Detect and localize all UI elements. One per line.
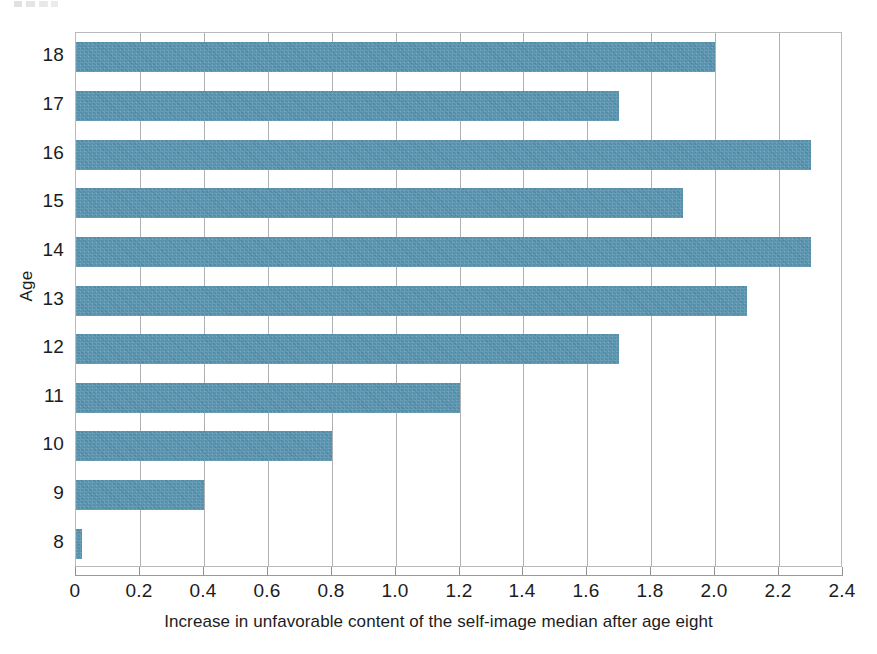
bar-row	[76, 140, 841, 170]
bar-age-10	[76, 431, 332, 461]
bar-age-8	[76, 529, 82, 559]
bar-age-16	[76, 140, 811, 170]
y-tick-label-12: 12	[34, 336, 64, 358]
x-tick-label-0.2: 0.2	[104, 580, 174, 602]
y-tick-label-16: 16	[34, 142, 64, 164]
x-tick-label-2: 2.0	[679, 580, 749, 602]
y-axis-title: Age	[17, 251, 37, 321]
x-tick-label-2.2: 2.2	[743, 580, 813, 602]
bars-layer	[76, 33, 841, 566]
y-tick-label-13: 13	[34, 288, 64, 310]
bar-age-9	[76, 480, 204, 510]
x-tick-label-0.6: 0.6	[232, 580, 302, 602]
bar-age-18	[76, 42, 715, 72]
y-tick-label-9: 9	[34, 482, 64, 504]
bar-age-14	[76, 237, 811, 267]
y-tick-label-17: 17	[34, 93, 64, 115]
x-axis-title: Increase in unfavorable content of the s…	[0, 612, 877, 632]
y-tick-label-8: 8	[34, 531, 64, 553]
bar-age-11	[76, 383, 460, 413]
x-tick-label-2.4: 2.4	[807, 580, 877, 602]
bar-age-12	[76, 334, 619, 364]
y-tick-label-11: 11	[34, 385, 64, 407]
bar-row	[76, 188, 841, 218]
bar-row	[76, 334, 841, 364]
bar-age-13	[76, 286, 747, 316]
x-tick-label-1.4: 1.4	[487, 580, 557, 602]
bar-age-15	[76, 188, 683, 218]
x-tick-label-0.4: 0.4	[168, 580, 238, 602]
x-tick-label-1.6: 1.6	[551, 580, 621, 602]
bar-row	[76, 431, 841, 461]
x-tick-label-1.8: 1.8	[615, 580, 685, 602]
x-tick-label-0: 0	[40, 580, 110, 602]
x-tick-label-1: 1.0	[360, 580, 430, 602]
bar-row	[76, 286, 841, 316]
x-tick-label-0.8: 0.8	[296, 580, 366, 602]
y-tick-label-10: 10	[34, 433, 64, 455]
bar-row	[76, 383, 841, 413]
y-tick-label-14: 14	[34, 239, 64, 261]
bar-chart-figure: Age 18171615141312111098 00.20.40.60.81.…	[0, 0, 877, 654]
bar-row	[76, 480, 841, 510]
y-tick-label-15: 15	[34, 190, 64, 212]
bar-row	[76, 42, 841, 72]
plot-area	[75, 32, 842, 567]
bar-age-17	[76, 91, 619, 121]
bar-row	[76, 237, 841, 267]
x-tick-label-1.2: 1.2	[424, 580, 494, 602]
bar-row	[76, 91, 841, 121]
y-tick-label-18: 18	[34, 44, 64, 66]
bar-row	[76, 529, 841, 559]
x-axis-line	[75, 575, 843, 576]
